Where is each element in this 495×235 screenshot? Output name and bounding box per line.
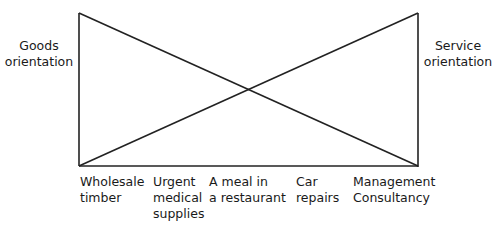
service-orientation-label: Service orientation [422, 38, 494, 70]
category-management-consultancy: Management Consultancy [353, 174, 435, 206]
category-urgent-medical-supplies: Urgent medical supplies [153, 174, 204, 222]
goods-orientation-label: Goods orientation [4, 38, 74, 70]
category-wholesale-timber: Wholesale timber [80, 174, 144, 206]
category-meal-in-restaurant: A meal in a restaurant [209, 174, 286, 206]
category-car-repairs: Car repairs [296, 174, 339, 206]
